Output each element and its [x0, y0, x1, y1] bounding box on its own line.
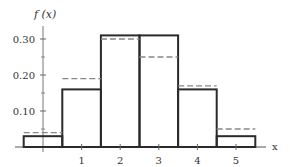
histogram-bar — [62, 89, 101, 147]
x-tick-label: 2 — [117, 155, 123, 166]
histogram-bar — [101, 35, 140, 147]
histogram-bar — [140, 35, 179, 147]
histogram-bar — [178, 89, 217, 147]
solid-bars — [24, 35, 256, 147]
y-tick-label: 0.10 — [13, 106, 35, 117]
y-tick-label: 0.20 — [13, 70, 35, 81]
x-tick-label: 1 — [78, 155, 84, 166]
x-axis-label: x — [272, 141, 278, 152]
y-axis-label: f (x) — [33, 8, 56, 21]
histogram-chart: 0.100.200.3012345 f (x) x — [0, 0, 290, 167]
x-tick-label: 5 — [233, 155, 239, 166]
x-tick-label: 3 — [156, 155, 162, 166]
y-tick-label: 0.30 — [13, 34, 35, 45]
x-tick-label: 4 — [194, 155, 200, 166]
